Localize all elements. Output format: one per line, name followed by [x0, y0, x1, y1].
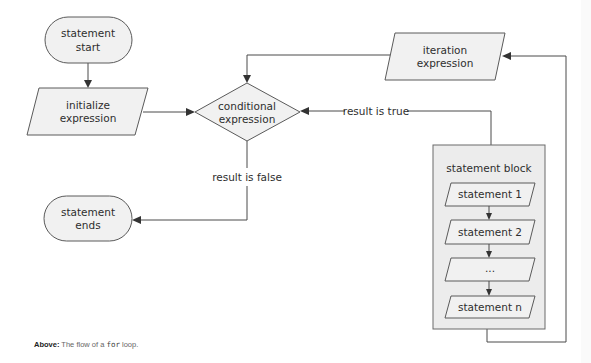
caption-pre: The flow of a [59, 340, 106, 349]
arrowhead-cond-left [186, 108, 195, 116]
arrowhead-cond-right [300, 107, 309, 115]
node-statement-start: statement start [45, 17, 132, 63]
node-start-line2: start [76, 41, 100, 53]
arrowhead-iter [502, 52, 511, 60]
for-loop-flowchart: statement start initialize expression co… [0, 0, 591, 363]
arrowhead-end [132, 216, 141, 224]
node-iter-line2: expression [417, 57, 474, 69]
node-start-line1: statement [61, 27, 115, 39]
node-statement-n-label: statement n [458, 301, 522, 313]
edge-label-true: result is true [343, 105, 409, 117]
caption-code: for [106, 340, 120, 349]
node-conditional-expression: conditional expression [195, 83, 300, 141]
arrowhead-init [84, 80, 92, 88]
node-statement-2-label: statement 2 [458, 226, 522, 238]
node-statement-block: statement block statement 1 statement 2 … [433, 145, 545, 329]
node-statement-dots-label: ... [485, 262, 495, 274]
caption-post: loop. [120, 340, 138, 349]
edge-label-false: result is false [212, 171, 282, 183]
statement-block-title: statement block [446, 162, 532, 174]
node-cond-line2: expression [219, 113, 276, 125]
node-initialize-expression: initialize expression [27, 88, 148, 135]
node-statement-1-label: statement 1 [458, 188, 522, 200]
arrowhead-cond-top [243, 75, 251, 83]
node-end-line2: ends [75, 219, 100, 231]
node-cond-line1: conditional [218, 100, 276, 112]
node-iteration-expression: iteration expression [385, 33, 505, 80]
caption-lead: Above: [34, 340, 59, 349]
edge-iter-to-cond [247, 55, 391, 77]
node-init-line2: expression [60, 112, 117, 124]
node-statement-ends: statement ends [44, 196, 132, 241]
node-init-line1: initialize [66, 99, 110, 111]
node-iter-line1: iteration [423, 44, 467, 56]
node-end-line1: statement [61, 206, 115, 218]
figure-caption: Above: The flow of a for loop. [34, 340, 138, 349]
